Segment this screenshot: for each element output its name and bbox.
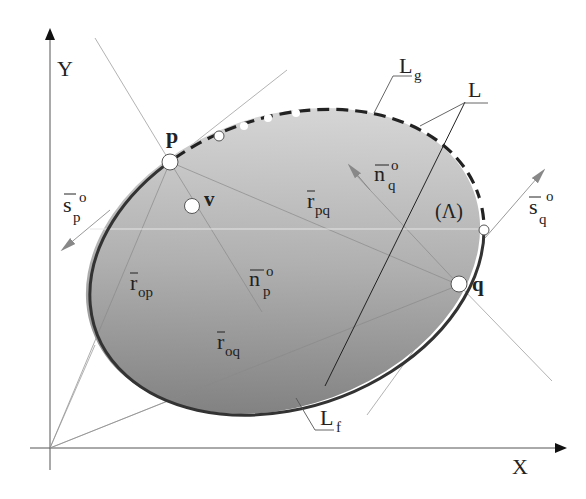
svg-text:f: f <box>336 419 341 435</box>
label-lg: L g <box>399 53 422 83</box>
point-p <box>162 154 178 170</box>
svg-text:g: g <box>414 67 422 83</box>
svg-text:s: s <box>63 192 72 217</box>
point-v <box>185 199 200 214</box>
region-label: (Λ) <box>435 200 463 223</box>
svg-text:n: n <box>374 161 385 186</box>
label-l: L <box>468 77 481 102</box>
point-q <box>451 276 467 292</box>
svg-text:o: o <box>546 188 554 204</box>
normal-line-p <box>95 38 170 162</box>
point-v-label: v <box>204 187 215 211</box>
l-leader <box>420 103 488 126</box>
svg-text:s: s <box>529 194 538 219</box>
label-lf: L f <box>320 405 341 435</box>
svg-text:p: p <box>263 283 271 299</box>
label-s-q: s q o <box>529 188 554 227</box>
svg-text:o: o <box>266 263 274 279</box>
normal-line-q <box>459 285 552 381</box>
y-axis-label: Y <box>57 56 73 81</box>
point-q-label: q <box>472 272 484 296</box>
diagram-canvas: Y X p v q (Λ) L g L L f s p o s q o n q … <box>0 0 586 499</box>
svg-text:r: r <box>307 188 315 213</box>
svg-text:q: q <box>388 177 396 193</box>
svg-text:q: q <box>539 211 547 227</box>
x-axis-label: X <box>512 454 528 479</box>
label-s-p: s p o <box>63 189 87 225</box>
svg-text:pq: pq <box>315 202 331 218</box>
lg-leader <box>374 76 412 113</box>
svg-text:r: r <box>217 329 225 354</box>
svg-text:L: L <box>320 405 333 430</box>
svg-text:L: L <box>399 53 412 78</box>
svg-text:o: o <box>391 157 399 173</box>
svg-text:p: p <box>73 209 81 225</box>
svg-text:oq: oq <box>225 343 241 359</box>
region-lambda <box>43 55 524 466</box>
svg-text:op: op <box>138 284 153 300</box>
svg-text:o: o <box>79 189 87 205</box>
svg-text:n: n <box>249 266 260 291</box>
point-p-label: p <box>166 123 178 148</box>
svg-text:r: r <box>130 270 138 295</box>
